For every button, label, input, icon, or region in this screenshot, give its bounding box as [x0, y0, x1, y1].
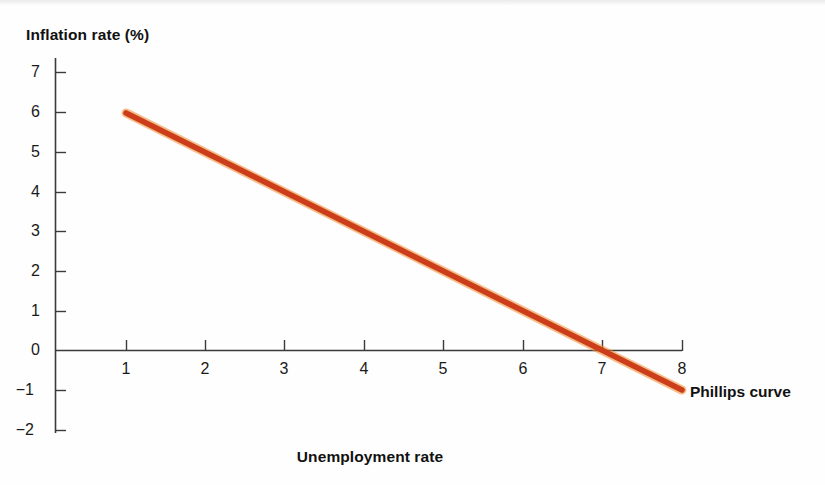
- curve-core: [126, 113, 682, 390]
- chart-page: Inflation rate (%) Unemployment rate Phi…: [0, 0, 825, 485]
- phillips-curve-chart: Inflation rate (%) Unemployment rate Phi…: [0, 0, 825, 485]
- chart-svg: [0, 0, 825, 485]
- y-axis-ticks: [55, 73, 66, 431]
- series-line-phillips-curve: [126, 113, 682, 390]
